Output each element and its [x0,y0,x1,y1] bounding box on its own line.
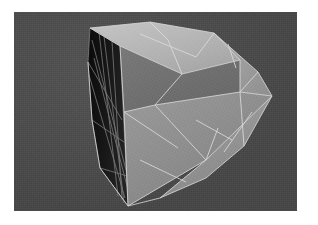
screenshot-root [0,0,318,225]
polyhedron-scene[interactable] [14,12,297,211]
3d-render-viewport[interactable] [14,12,297,211]
face-mid-lower [124,92,272,206]
